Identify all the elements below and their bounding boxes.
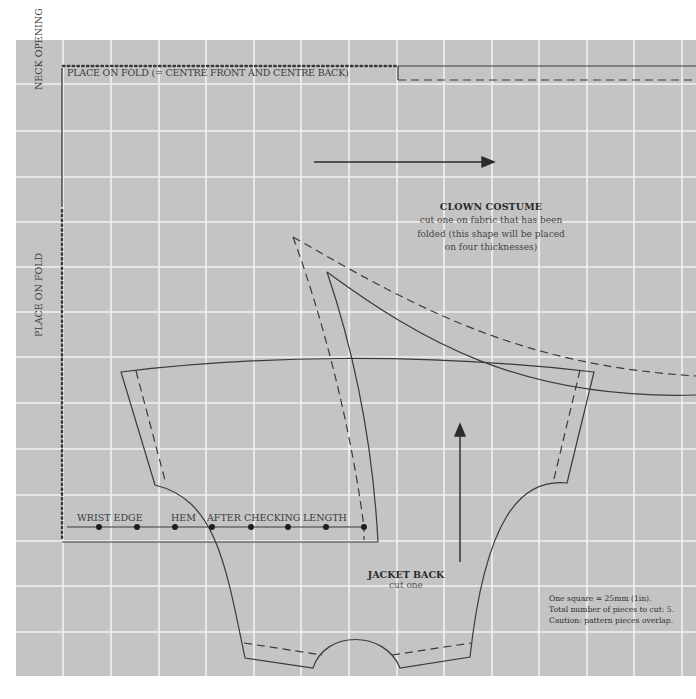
jacket-back-title: JACKET BACK xyxy=(346,569,466,580)
jacket-back-label: JACKET BACK cut one xyxy=(346,569,466,590)
clown-costume-line-2: folded (this shape will be placed xyxy=(396,228,586,242)
place-on-fold-side-label: PLACE ON FOLD xyxy=(33,253,44,337)
note-caution: Caution: pattern pieces overlap. xyxy=(549,615,674,626)
clown-costume-title: CLOWN COSTUME xyxy=(396,201,586,212)
edge-label-length: LENGTH xyxy=(303,512,347,523)
edge-label-wrist: WRIST EDGE xyxy=(77,512,143,523)
grainline-arrow-horizontal xyxy=(314,157,494,167)
clown-costume-line-1: cut one on fabric that has been xyxy=(396,214,586,228)
edge-label-hem: HEM xyxy=(171,512,196,523)
note-scale: One square = 25mm (1in). xyxy=(549,593,674,604)
clown-solid-sweep xyxy=(327,272,696,395)
place-on-fold-label: PLACE ON FOLD (= CENTRE FRONT AND CENTRE… xyxy=(67,67,349,78)
clown-dashed-curve xyxy=(293,237,364,527)
neck-opening-label: NECK OPENING xyxy=(33,8,44,90)
pattern-notes: One square = 25mm (1in). Total number of… xyxy=(549,593,674,626)
clown-costume-line-3: on four thicknesses) xyxy=(396,241,586,255)
note-pieces: Total number of pieces to cut: 5. xyxy=(549,604,674,615)
jacket-back-subtitle: cut one xyxy=(346,580,466,590)
clown-costume-label: CLOWN COSTUME cut one on fabric that has… xyxy=(396,201,586,255)
edge-label-after-checking: AFTER CHECKING xyxy=(207,512,300,523)
clown-dashed-sweep xyxy=(293,237,696,376)
